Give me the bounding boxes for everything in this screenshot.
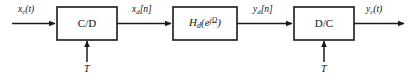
signal-label-yd: yd[n] bbox=[253, 5, 273, 15]
clock-label-t-dc: T bbox=[321, 64, 327, 74]
block-hd-label-base: H bbox=[189, 16, 197, 28]
diagram-canvas bbox=[0, 0, 411, 82]
block-hd-label: Hd(ejΩ) bbox=[173, 17, 237, 30]
clock-label-t-cd: T bbox=[84, 64, 90, 74]
signal-yc-rest: (t) bbox=[373, 4, 382, 14]
block-cd-label: C/D bbox=[57, 18, 117, 29]
signal-xc-rest: (t) bbox=[25, 4, 34, 14]
block-diagram: C/D Hd(ejΩ) D/C xc(t) xd[n] yd[n] yc(t) … bbox=[0, 0, 411, 82]
signal-yd-rest: [n] bbox=[261, 4, 273, 14]
signal-label-yc: yc(t) bbox=[366, 5, 382, 15]
block-hd-label-close: ) bbox=[217, 16, 221, 28]
block-hd-label-open: (e bbox=[201, 16, 210, 28]
block-dc-label: D/C bbox=[294, 18, 354, 29]
signal-label-xc: xc(t) bbox=[18, 5, 34, 15]
signal-label-xd: xd[n] bbox=[132, 5, 152, 15]
signal-xd-rest: [n] bbox=[140, 4, 152, 14]
